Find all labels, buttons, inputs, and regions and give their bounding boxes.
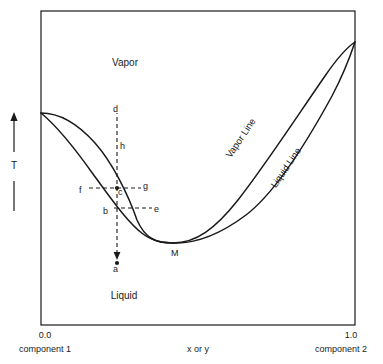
x-tick-component-left: component 1 xyxy=(19,345,71,354)
diagram-canvas xyxy=(0,0,383,364)
point-label-e: e xyxy=(154,205,159,214)
liquid-region-label: Liquid xyxy=(111,291,138,301)
point-label-m: M xyxy=(171,249,179,258)
vapor-region-label: Vapor xyxy=(112,58,138,68)
t-axis-arrowhead-icon xyxy=(10,112,17,121)
x-tick-value-left: 0.0 xyxy=(39,331,52,340)
phase-diagram-figure: Vapor Liquid Vapor Line Liquid Line a b … xyxy=(0,0,383,364)
x-tick-value-right: 1.0 xyxy=(345,331,358,340)
point-label-c: c xyxy=(118,188,123,197)
point-label-d: d xyxy=(113,105,118,114)
point-label-g: g xyxy=(143,182,148,191)
y-axis-label: T xyxy=(11,161,17,171)
x-tick-component-right: component 2 xyxy=(315,345,367,354)
x-axis-label: x or y xyxy=(187,345,209,354)
point-label-f: f xyxy=(79,186,82,195)
point-label-b: b xyxy=(103,207,108,216)
point-label-a: a xyxy=(113,265,118,274)
point-label-h: h xyxy=(120,142,125,151)
